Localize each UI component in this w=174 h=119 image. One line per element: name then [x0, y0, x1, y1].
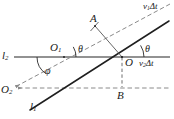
label-point-O1: O1 — [50, 42, 61, 54]
label-vector-v1-delta-t: v1Δt — [143, 2, 158, 12]
label-angle-theta-right: θ — [145, 44, 150, 54]
point-dot-O1 — [63, 56, 65, 58]
point-dot-A — [94, 25, 96, 27]
label-vector-v2-delta-t: v2Δt — [139, 59, 154, 69]
point-dot-O — [121, 56, 123, 58]
label-point-B: B — [117, 90, 124, 101]
label-line-l2: l2 — [2, 50, 8, 62]
label-point-O: O — [125, 57, 133, 68]
geometry-diagram: l2 l1 O1 O2 O A B θ θ φ v1Δt v2Δt — [0, 0, 174, 119]
angle-arc-theta-right — [141, 45, 144, 57]
label-point-O2: O2 — [1, 84, 12, 96]
label-angle-phi: φ — [45, 66, 51, 76]
label-line-l1: l1 — [30, 101, 36, 113]
label-point-A: A — [90, 13, 97, 24]
label-angle-theta-left: θ — [78, 44, 83, 54]
